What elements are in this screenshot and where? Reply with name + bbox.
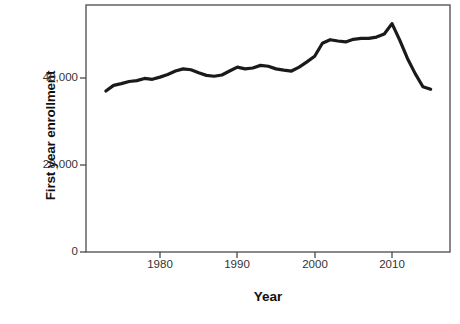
chart-figure: First year enrollment Year 40,000 20,000… bbox=[0, 0, 460, 324]
plot-area bbox=[0, 0, 460, 324]
data-line-first-year-enrollment bbox=[106, 24, 431, 91]
tick-marks bbox=[80, 78, 392, 258]
plot-frame bbox=[86, 5, 450, 252]
